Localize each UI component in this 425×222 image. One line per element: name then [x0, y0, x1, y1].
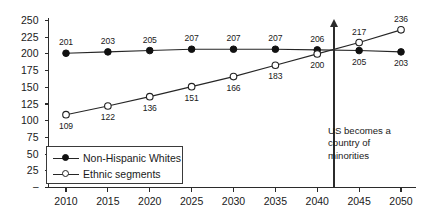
data-point-marker	[398, 27, 405, 34]
chart-legend: Non-Hispanic Whites Ethnic segments	[46, 146, 183, 184]
data-point-marker	[105, 49, 112, 56]
y-axis-label-175: 175	[9, 65, 39, 76]
x-axis-ticks	[66, 188, 401, 192]
x-axis-label-2025: 2025	[172, 196, 212, 207]
data-point-marker	[146, 93, 153, 100]
data-point-marker	[398, 49, 405, 56]
y-axis-label-50: 50	[9, 149, 39, 160]
legend-item-ethnic-segments: Ethnic segments	[53, 166, 161, 182]
data-point-marker	[356, 47, 363, 54]
y-axis-label-125: 125	[9, 99, 39, 110]
y-axis-label-100: 100	[9, 115, 39, 126]
data-point-label: 183	[260, 72, 290, 81]
data-point-label: 166	[219, 84, 249, 93]
x-axis-label-2030: 2030	[214, 196, 254, 207]
data-point-label: 151	[177, 94, 207, 103]
y-axis-label-250: 250	[9, 15, 39, 26]
data-point-marker	[314, 51, 321, 58]
y-axis-label-75: 75	[9, 132, 39, 143]
x-axis-label-2040: 2040	[297, 196, 337, 207]
data-point-marker	[63, 111, 70, 118]
y-axis-label-0: –	[9, 182, 39, 192]
data-point-marker	[188, 46, 195, 53]
data-point-marker	[188, 83, 195, 90]
x-axis-label-2020: 2020	[130, 196, 170, 207]
annotation-line-2: country of	[328, 137, 420, 149]
y-axis-label-25: 25	[9, 165, 39, 176]
x-axis-label-2010: 2010	[46, 196, 86, 207]
data-point-label: 136	[135, 104, 165, 113]
legend-label-ethnic-segments: Ethnic segments	[83, 168, 161, 180]
data-point-marker	[63, 50, 70, 57]
y-axis-label-200: 200	[9, 48, 39, 59]
data-point-label: 236	[386, 15, 416, 24]
data-point-label: 122	[93, 113, 123, 122]
y-axis-label-150: 150	[9, 82, 39, 93]
annotation-line-1: US becomes a	[328, 125, 420, 137]
crossover-arrowhead-icon	[330, 19, 338, 27]
data-point-marker	[105, 103, 112, 110]
data-point-label: 206	[302, 35, 332, 44]
annotation-line-3: minorities	[328, 150, 420, 162]
data-point-marker	[146, 47, 153, 54]
data-point-marker	[272, 62, 279, 69]
legend-label-non-hispanic-whites: Non-Hispanic Whites	[83, 152, 181, 164]
data-point-label: 207	[219, 34, 249, 43]
data-point-label: 203	[386, 59, 416, 68]
data-point-label: 201	[51, 38, 81, 47]
x-axis-label-2050: 2050	[381, 196, 421, 207]
data-point-marker	[230, 73, 237, 80]
legend-marker-filled-circle-icon	[53, 151, 79, 165]
chart-container: –255075100125150175200225250 20102015202…	[0, 0, 425, 222]
data-point-label: 207	[260, 34, 290, 43]
data-point-label: 200	[302, 61, 332, 70]
x-axis-label-2015: 2015	[88, 196, 128, 207]
x-axis-label-2045: 2045	[339, 196, 379, 207]
data-point-label: 109	[51, 122, 81, 131]
data-point-marker	[230, 46, 237, 53]
legend-marker-open-circle-icon	[53, 167, 79, 181]
y-axis-label-225: 225	[9, 32, 39, 43]
data-point-label: 203	[93, 37, 123, 46]
x-axis-label-2035: 2035	[255, 196, 295, 207]
data-point-label: 205	[344, 58, 374, 67]
data-point-label: 207	[177, 34, 207, 43]
data-point-marker	[272, 46, 279, 53]
data-point-label: 217	[344, 28, 374, 37]
data-point-label: 205	[135, 36, 165, 45]
crossover-annotation-text: US becomes a country of minorities	[328, 125, 420, 162]
legend-item-non-hispanic-whites: Non-Hispanic Whites	[53, 150, 181, 166]
crossover-arrow	[330, 19, 338, 188]
data-point-marker	[356, 39, 363, 46]
